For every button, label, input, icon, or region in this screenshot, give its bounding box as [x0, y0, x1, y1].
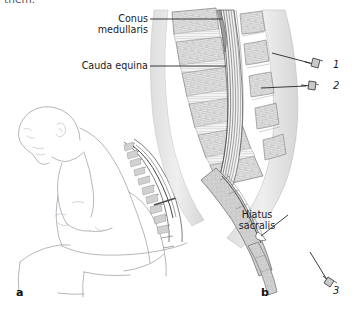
- label-hiatus-sacralis: Hiatus sacralis: [228, 209, 286, 232]
- label-conus-medullaris: Conus medullaris: [60, 13, 148, 36]
- marker-label-2: 2: [333, 80, 339, 91]
- label-cauda-equina: Cauda equina: [44, 60, 148, 71]
- marker-label-1: 1: [333, 59, 339, 70]
- panel-letter-b: b: [261, 286, 269, 299]
- panel-b-sagittal-spine: [150, 8, 297, 295]
- label-conus-medullaris-line2: medullaris: [60, 24, 148, 35]
- marker-label-3: 3: [333, 285, 339, 296]
- panel-letter-a: a: [16, 286, 23, 299]
- label-hiatus-sacralis-line1: Hiatus: [228, 209, 286, 220]
- label-conus-medullaris-line1: Conus: [60, 13, 148, 24]
- label-hiatus-sacralis-line2: sacralis: [228, 220, 286, 231]
- needle-marker-2-icon: [301, 81, 319, 90]
- anatomical-figure: them.: [0, 0, 362, 309]
- figure-artwork: [0, 0, 362, 309]
- needle-marker-1-icon: [305, 58, 323, 68]
